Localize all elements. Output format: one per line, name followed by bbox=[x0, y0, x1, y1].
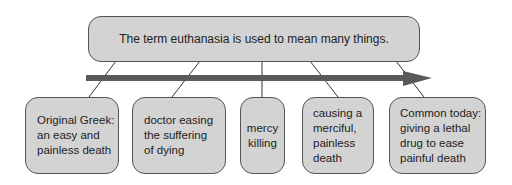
meaning-text: causing a merciful, painless death bbox=[313, 106, 362, 166]
meaning-text: doctor easing the suffering of dying bbox=[144, 113, 213, 158]
meaning-text: mercy killing bbox=[247, 121, 278, 151]
meaning-box-common-today: Common today: giving a lethal drug to ea… bbox=[389, 97, 486, 174]
meaning-text: Original Greek: an easy and painless dea… bbox=[37, 113, 114, 158]
meaning-box-merciful-death: causing a merciful, painless death bbox=[302, 97, 374, 174]
meaning-text: Common today: giving a lethal drug to ea… bbox=[400, 106, 481, 166]
title-text: The term euthanasia is used to mean many… bbox=[119, 32, 388, 47]
timeline-arrow bbox=[86, 71, 432, 86]
title-box: The term euthanasia is used to mean many… bbox=[88, 16, 420, 62]
meaning-box-mercy-killing: mercy killing bbox=[240, 97, 285, 174]
meaning-box-doctor-easing: doctor easing the suffering of dying bbox=[132, 97, 226, 174]
meaning-box-original-greek: Original Greek: an easy and painless dea… bbox=[25, 97, 119, 174]
